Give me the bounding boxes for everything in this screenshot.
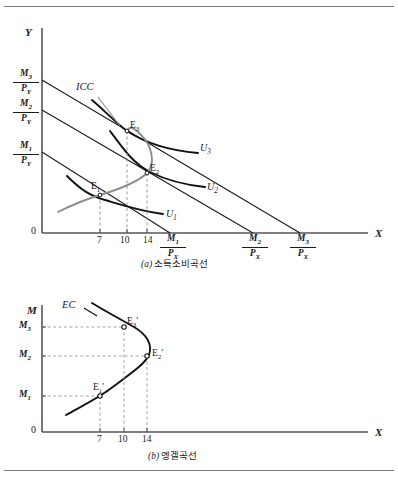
panel-a-xtick-label-14: 14 <box>143 236 153 246</box>
indifference-curve-label-u3: U3 <box>200 143 211 156</box>
equilibrium-label-e1: E1 <box>91 182 100 194</box>
panel-a-y-axis-label: Y <box>25 27 32 38</box>
equilibrium-label-e3: E3 <box>130 121 139 133</box>
panel-a-origin-label: 0 <box>31 226 36 236</box>
engel-label-e1-prime: E1′ <box>93 383 104 395</box>
panel-a-xtick-label-10: 10 <box>120 236 130 246</box>
engel-label-e2-prime: E2′ <box>152 349 163 361</box>
equilibrium-point-e3 <box>125 129 129 133</box>
panel-a-y-intercept-label-3: M3 PY <box>13 69 39 96</box>
engel-point-e2-prime <box>145 354 149 358</box>
panel-b-xtick-label-10: 10 <box>118 435 128 445</box>
panel-b-origin-label: 0 <box>31 425 36 435</box>
indifference-curve-label-u2: U2 <box>207 182 218 195</box>
equilibrium-point-e2 <box>145 171 149 175</box>
panel-b-ytick-label-m2: M2 <box>19 350 31 362</box>
panel-a-graphics <box>42 28 368 233</box>
panel-a-xtick-label-7: 7 <box>97 236 102 246</box>
panel-a-x-intercept-label-1: M1 PX <box>160 234 186 261</box>
ec-curve-label: EC <box>62 300 75 311</box>
equilibrium-label-e2: E2 <box>150 164 159 176</box>
icc-leader-line <box>98 97 120 126</box>
panel-b-ytick-label-m3: M3 <box>19 321 31 333</box>
textbook-figure: Y X 0 M3 PY M2 PY M1 PY 7 10 14 M1 PX M2… <box>0 0 398 477</box>
indifference-curve-u3 <box>92 100 198 153</box>
indifference-curve-u2 <box>110 131 205 187</box>
engel-point-e3-prime <box>122 325 126 329</box>
panel-b-caption: (b) 엥겔곡선 <box>148 452 197 462</box>
panel-b-ytick-label-m1: M1 <box>19 390 31 402</box>
panel-b-graphics <box>42 303 368 432</box>
panel-a-x-intercept-label-3: M3 PX <box>290 234 316 261</box>
figure-vector-layer <box>0 0 398 477</box>
panel-a-y-intercept-label-2: M2 PY <box>13 99 39 126</box>
icc-curve-label: ICC <box>76 82 94 93</box>
panel-a-x-intercept-label-2: M2 PX <box>242 234 268 261</box>
ec-leader-line <box>84 308 97 316</box>
panel-b-xtick-label-14: 14 <box>142 435 152 445</box>
panel-b-y-axis-label: M <box>27 305 37 316</box>
indifference-curve-label-u1: U1 <box>166 209 177 222</box>
indifference-curve-u1 <box>67 176 163 214</box>
panel-a-y-intercept-label-1: M1 PY <box>13 141 39 168</box>
panel-a-x-axis-label: X <box>375 228 382 239</box>
panel-b-xtick-label-7: 7 <box>97 435 102 445</box>
panel-a-caption: (a) 소득소비곡선 <box>141 260 208 270</box>
panel-b-x-axis-label: X <box>375 427 382 438</box>
engel-label-e3-prime: E3′ <box>127 317 138 329</box>
